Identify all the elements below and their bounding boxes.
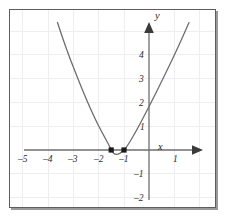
gridlines (10, 10, 215, 207)
y-axis-label: y (155, 11, 160, 21)
y-tick-label-2: 2 (139, 98, 144, 108)
y-tick-label-minus-2: –2 (134, 193, 144, 203)
parabola-curve (58, 23, 190, 155)
x-tick-label-minus-1: –1 (119, 154, 129, 164)
point-marker-root-minus-1 (121, 147, 126, 152)
point-marker-root-minus-2 (109, 147, 114, 152)
plot-frame: x y –5 –4 –3 –2 –1 1 4 3 2 1 –1 –2 (9, 9, 216, 208)
x-tick-label-minus-2: –2 (94, 154, 104, 164)
y-tick-label-minus-1: –1 (134, 169, 144, 179)
y-tick-label-4: 4 (139, 50, 144, 60)
plot-canvas (10, 10, 215, 207)
curve-path (58, 23, 190, 155)
figure-container: x y –5 –4 –3 –2 –1 1 4 3 2 1 –1 –2 (0, 0, 228, 219)
x-tick-label-minus-4: –4 (43, 154, 53, 164)
y-axis-arrowhead (144, 22, 154, 33)
x-tick-label-minus-5: –5 (18, 154, 28, 164)
x-tick-label-minus-3: –3 (68, 154, 78, 164)
y-tick-label-3: 3 (139, 74, 144, 84)
x-axis-arrowhead (192, 145, 203, 155)
y-tick-label-1: 1 (140, 122, 145, 132)
x-tick-label-1: 1 (173, 154, 178, 164)
x-axis-label: x (158, 142, 163, 152)
